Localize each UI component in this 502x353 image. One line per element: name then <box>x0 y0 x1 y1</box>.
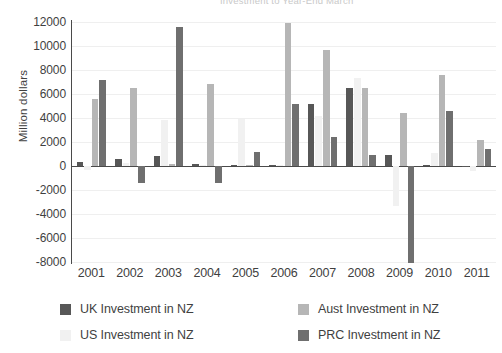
y-tick-label: 4000 <box>4 111 66 125</box>
y-tick-label: 8000 <box>4 63 66 77</box>
bar <box>408 166 415 263</box>
bar <box>130 88 137 166</box>
bar <box>154 156 161 166</box>
x-tick-label: 2011 <box>455 266 499 280</box>
bar-chart: Investment to Year-End March Million dol… <box>0 0 502 353</box>
y-tick-label: 0 <box>4 159 66 173</box>
gridline <box>72 262 496 263</box>
y-axis-tick-labels: 120001000080006000400020000-2000-4000-60… <box>2 22 66 262</box>
x-tick-label: 2009 <box>378 266 422 280</box>
bar <box>431 153 438 166</box>
bar <box>246 165 253 166</box>
bar <box>485 149 492 166</box>
bar <box>77 162 84 166</box>
legend-label: US Investment in NZ <box>80 328 193 342</box>
bar <box>161 120 168 166</box>
legend-label: UK Investment in NZ <box>80 302 193 316</box>
gridline <box>72 190 496 191</box>
legend-label: Aust Investment in NZ <box>318 302 439 316</box>
chart-title: Investment to Year-End March <box>220 0 502 5</box>
bar <box>393 166 400 206</box>
x-tick-label: 2001 <box>69 266 113 280</box>
bar <box>292 104 299 166</box>
bar <box>423 165 430 166</box>
bar <box>477 140 484 166</box>
x-tick-label: 2010 <box>416 266 460 280</box>
bar <box>315 116 322 166</box>
bar <box>369 155 376 166</box>
gridline <box>72 238 496 239</box>
bar <box>200 165 207 166</box>
bar <box>362 88 369 166</box>
x-tick-label: 2007 <box>301 266 345 280</box>
bar <box>462 166 469 167</box>
bar <box>84 166 91 170</box>
bar <box>323 50 330 166</box>
x-tick-label: 2005 <box>223 266 267 280</box>
x-tick-label: 2006 <box>262 266 306 280</box>
bar <box>207 84 214 166</box>
bar <box>99 80 106 166</box>
bar <box>439 75 446 166</box>
bar <box>115 159 122 166</box>
bar <box>92 99 99 166</box>
legend-item[interactable]: UK Investment in NZ <box>60 302 298 316</box>
zero-baseline <box>72 166 496 167</box>
chart-legend: UK Investment in NZAust Investment in NZ… <box>60 296 500 348</box>
legend-swatch-icon <box>298 304 309 315</box>
bar <box>346 88 353 166</box>
bar <box>269 165 276 166</box>
y-tick-label: 10000 <box>4 39 66 53</box>
y-tick-label: -2000 <box>4 183 66 197</box>
y-tick-label: -6000 <box>4 231 66 245</box>
bar <box>176 27 183 166</box>
bar <box>238 119 245 166</box>
y-tick-label: -4000 <box>4 207 66 221</box>
legend-swatch-icon <box>298 330 309 341</box>
legend-swatch-icon <box>60 304 71 315</box>
bar <box>470 166 477 171</box>
bar <box>446 111 453 166</box>
x-axis-tick-labels: 2001200220032004200520062007200820092010… <box>72 266 496 284</box>
y-tick-label: -8000 <box>4 255 66 269</box>
y-tick-label: 12000 <box>4 15 66 29</box>
bar <box>400 113 407 166</box>
bar <box>277 165 284 166</box>
bar <box>169 164 176 166</box>
legend-swatch-icon <box>60 330 71 341</box>
plot-area <box>72 22 496 262</box>
bar <box>215 166 222 183</box>
bar <box>354 78 361 166</box>
bar <box>285 23 292 166</box>
y-tick-label: 6000 <box>4 87 66 101</box>
y-tick-label: 2000 <box>4 135 66 149</box>
bar <box>123 163 130 166</box>
bar <box>308 104 315 166</box>
bar <box>138 166 145 183</box>
gridline <box>72 214 496 215</box>
bar <box>254 152 261 166</box>
bar <box>331 137 338 166</box>
x-tick-label: 2008 <box>339 266 383 280</box>
x-tick-label: 2004 <box>185 266 229 280</box>
bar <box>192 164 199 166</box>
legend-item[interactable]: Aust Investment in NZ <box>298 302 500 316</box>
bar <box>231 165 238 166</box>
legend-item[interactable]: PRC Investment in NZ <box>298 328 500 342</box>
bar <box>385 155 392 166</box>
x-tick-label: 2003 <box>146 266 190 280</box>
x-tick-label: 2002 <box>108 266 152 280</box>
legend-item[interactable]: US Investment in NZ <box>60 328 298 342</box>
legend-label: PRC Investment in NZ <box>318 328 440 342</box>
